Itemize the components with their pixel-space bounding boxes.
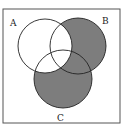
label-a: A	[9, 18, 17, 28]
label-b: B	[102, 16, 109, 26]
venn-diagram: A B C	[0, 0, 123, 130]
label-c: C	[57, 113, 64, 123]
